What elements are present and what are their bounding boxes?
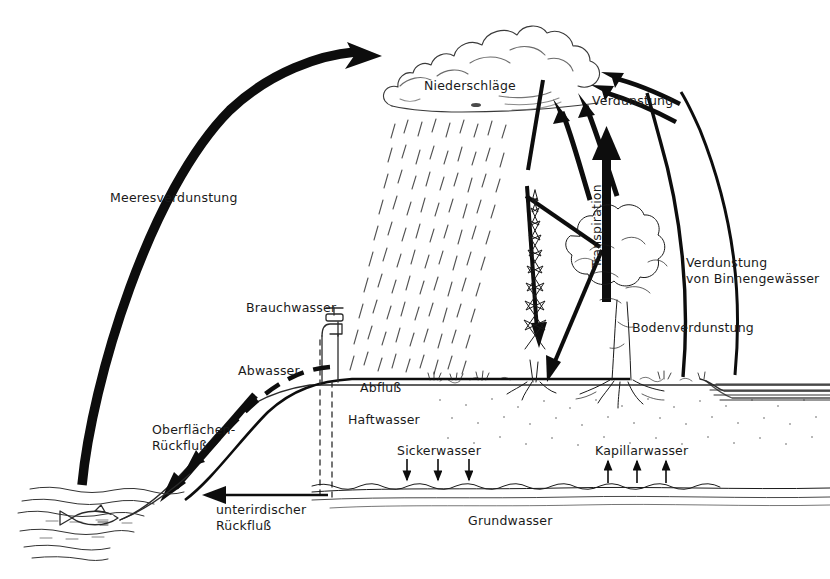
label-haftwasser: Haftwasser (348, 412, 420, 427)
label-niederschlaege: Niederschläge (424, 78, 516, 93)
label-transpiration: Transpiration (589, 184, 604, 268)
label-abwasser: Abwasser (238, 363, 300, 378)
label-grundwasser: Grundwasser (468, 513, 553, 528)
label-bodenverdunstung: Bodenverdunstung (632, 320, 754, 335)
label-meeresverdunstung: Meeresverdunstung (110, 190, 238, 205)
label-unterirdischer-rueckfluss-line1: unterirdischer (216, 502, 306, 517)
label-oberflaechen-rueckfluss-line2: Rückfluß (152, 438, 207, 453)
label-oberflaechen-rueckfluss-line1: Oberflächen- (152, 422, 235, 437)
verdunstung-arrows (553, 72, 680, 200)
rain-icon (350, 119, 506, 374)
inland-water-body (700, 379, 830, 400)
sickerwasser-arrows (407, 459, 469, 480)
label-kapillarwasser: Kapillarwasser (595, 443, 688, 458)
label-verdunstung: Verdunstung (592, 93, 673, 108)
water-tap-icon (320, 308, 343, 500)
diagram-canvas (0, 0, 830, 579)
sea-ocean (18, 474, 190, 561)
hydrological-cycle-diagram: Meeresverdunstung Niederschläge Verdunst… (0, 0, 830, 579)
label-verdunstung-binnengewaesser-line1: Verdunstung (686, 255, 767, 270)
label-brauchwasser: Brauchwasser (246, 300, 336, 315)
label-abfluss: Abfluß (360, 380, 401, 395)
kapillarwasser-arrows (608, 461, 666, 483)
cloud-icon (383, 26, 599, 112)
label-sickerwasser: Sickerwasser (397, 443, 481, 458)
fish-icon (60, 505, 118, 525)
label-verdunstung-binnengewaesser-line2: von Binnengewässer (686, 271, 819, 286)
label-unterirdischer-rueckfluss-line2: Rückfluß (216, 518, 271, 533)
